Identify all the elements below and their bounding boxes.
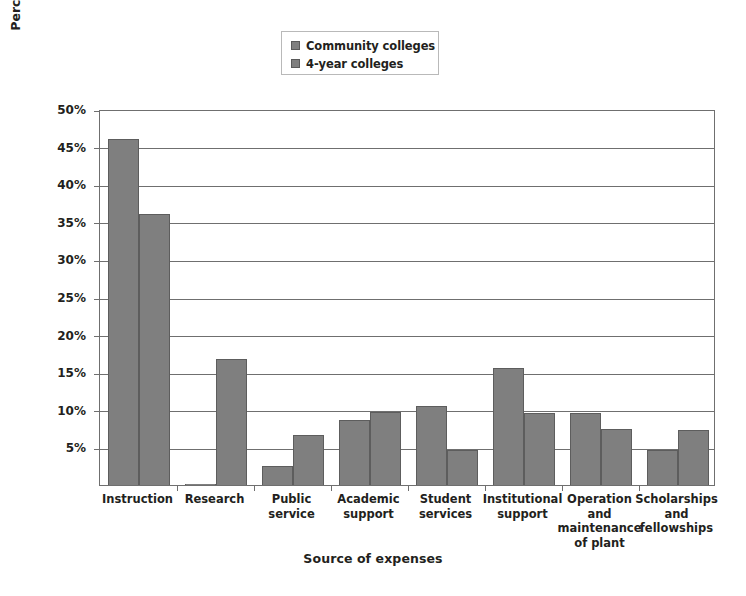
- legend-label-4-year-colleges: 4-year colleges: [306, 57, 403, 71]
- y-axis-tick: [94, 411, 100, 412]
- x-axis-tick: [562, 485, 563, 491]
- bar-4-year-colleges: [293, 435, 324, 485]
- y-axis-tick: [94, 336, 100, 337]
- y-axis-tick-label: 45%: [57, 141, 86, 155]
- chart-legend: Community colleges 4-year colleges: [281, 31, 439, 75]
- bar-community-colleges: [262, 466, 293, 485]
- bar-community-colleges: [570, 413, 601, 485]
- x-axis-tick: [254, 485, 255, 491]
- x-axis-tick: [639, 485, 640, 491]
- y-axis-tick: [94, 148, 100, 149]
- bar-community-colleges: [108, 139, 139, 485]
- bar-4-year-colleges: [216, 359, 247, 485]
- y-axis-tick-label: 25%: [57, 291, 86, 305]
- bar-4-year-colleges: [447, 450, 478, 485]
- legend-item-community-colleges: Community colleges: [291, 37, 438, 54]
- x-axis-tick: [331, 485, 332, 491]
- gridline: [100, 374, 714, 375]
- bar-community-colleges: [493, 368, 524, 485]
- gridline: [100, 336, 714, 337]
- bar-4-year-colleges: [139, 214, 170, 485]
- x-axis-tick: [408, 485, 409, 491]
- y-axis-tick-label: 10%: [57, 404, 86, 418]
- y-axis-tick-label: 20%: [57, 329, 86, 343]
- plot-area: [99, 110, 715, 486]
- bar-community-colleges: [339, 420, 370, 485]
- legend-item-4-year-colleges: 4-year colleges: [291, 55, 438, 72]
- x-axis-tick-labels: InstructionResearchPublicserviceAcademic…: [99, 492, 715, 552]
- gridline: [100, 411, 714, 412]
- y-axis-tick: [94, 299, 100, 300]
- legend-swatch-community-colleges: [291, 41, 300, 50]
- y-axis-tick-label: 40%: [57, 178, 86, 192]
- bar-4-year-colleges: [524, 413, 555, 485]
- legend-label-community-colleges: Community colleges: [306, 39, 435, 53]
- y-axis-tick-label: 35%: [57, 216, 86, 230]
- x-axis-title: Source of expenses: [0, 551, 746, 566]
- y-axis-tick: [94, 261, 100, 262]
- y-axis-tick: [94, 111, 100, 112]
- y-axis-tick-label: 5%: [66, 441, 86, 455]
- y-axis-title: Percentage of expenses: [8, 0, 32, 134]
- y-axis-tick-label: 30%: [57, 253, 86, 267]
- x-axis-tick: [485, 485, 486, 491]
- y-axis-tick: [94, 223, 100, 224]
- x-axis-tick-label: Scholarshipsandfellowships: [626, 492, 727, 536]
- bar-community-colleges: [416, 406, 447, 485]
- y-axis-tick: [94, 449, 100, 450]
- y-axis-tick-label: 15%: [57, 366, 86, 380]
- legend-swatch-4-year-colleges: [291, 59, 300, 68]
- y-axis-tick: [94, 374, 100, 375]
- bar-4-year-colleges: [601, 429, 632, 485]
- gridline: [100, 148, 714, 149]
- bar-community-colleges: [647, 450, 678, 485]
- bar-4-year-colleges: [678, 430, 709, 485]
- y-axis-tick-labels: 50%45%40%35%30%25%20%15%10%5%: [0, 110, 94, 486]
- gridline: [100, 223, 714, 224]
- gridline: [100, 186, 714, 187]
- x-axis-tick: [177, 485, 178, 491]
- bar-community-colleges: [185, 484, 216, 486]
- y-axis-tick-label: 50%: [57, 103, 86, 117]
- y-axis-tick: [94, 186, 100, 187]
- gridline: [100, 261, 714, 262]
- gridline: [100, 299, 714, 300]
- bar-4-year-colleges: [370, 412, 401, 485]
